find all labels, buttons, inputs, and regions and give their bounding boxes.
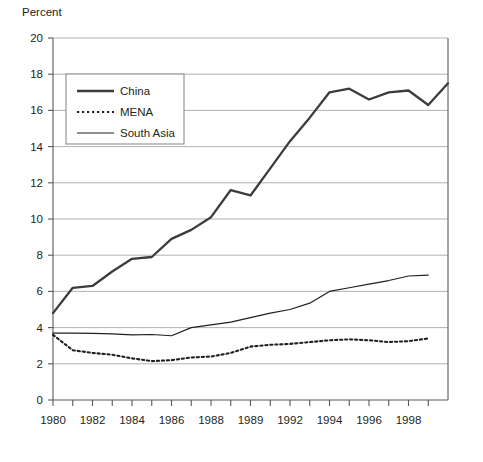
series-line-mena [53,335,428,361]
chart-legend: ChinaMENASouth Asia [66,74,184,144]
x-axis-tick-label: 1998 [396,414,422,426]
y-axis-tick-label: 0 [37,394,43,406]
y-axis: 02468101214161820 [30,32,53,406]
x-axis-tick-label: 1989 [238,414,264,426]
y-axis-tick-label: 20 [30,32,43,44]
y-axis-tick-label: 14 [30,141,43,153]
series-line-south-asia [53,275,428,336]
x-axis-tick-label: 1996 [356,414,382,426]
y-axis-tick-label: 4 [37,322,44,334]
chart-container: Percent 02468101214161820 19801982198419… [0,0,483,462]
legend-label-south-asia: South Asia [120,127,176,139]
y-axis-tick-label: 6 [37,285,43,297]
legend-label-china: China [120,85,151,97]
y-axis-tick-label: 12 [30,177,43,189]
line-chart: 02468101214161820 1980198219841986198819… [0,0,483,462]
legend-label-mena: MENA [120,106,154,118]
x-axis: 1980198219841986198819891992199419961998 [40,400,448,426]
x-axis-tick-label: 1992 [277,414,303,426]
x-axis-tick-label: 1980 [40,414,66,426]
x-axis-tick-label: 1984 [119,414,145,426]
y-axis-tick-label: 8 [37,249,43,261]
x-axis-tick-label: 1994 [317,414,343,426]
y-axis-tick-label: 16 [30,104,43,116]
y-axis-tick-label: 18 [30,68,43,80]
x-axis-tick-label: 1982 [80,414,106,426]
x-axis-tick-label: 1988 [198,414,224,426]
y-axis-tick-label: 2 [37,358,43,370]
x-axis-tick-label: 1986 [159,414,185,426]
y-axis-tick-label: 10 [30,213,43,225]
